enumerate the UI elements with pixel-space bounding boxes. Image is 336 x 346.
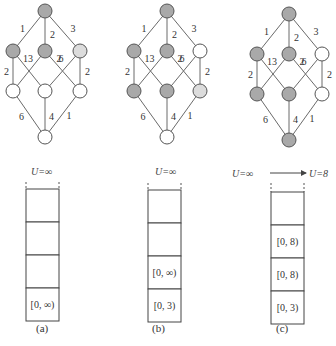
graph-node [38,44,52,58]
caption-b: (b) [152,322,165,335]
edge-weight-label: 1 [142,23,147,34]
edge-weight-label: 3 [71,23,76,34]
edge-weight-label: 6 [141,111,146,122]
edge-weight-label: 1 [264,26,269,37]
edge-weight-label: 2 [178,53,183,64]
edge-weight-label: 1 [145,53,150,64]
stack-cell [148,190,181,223]
edge-weight-label: 4 [171,111,176,122]
graph-node [38,4,52,18]
stack-cell-interval: [0, 3) [154,300,176,312]
upper-bound-label-c-new: U=8 [309,168,328,179]
edge-weight-label: 6 [19,111,24,122]
edge-weight-label: 2 [4,66,9,77]
graph-node [73,84,87,98]
edge-weight-label: 3 [272,56,277,67]
edge-weight-label: 2 [248,69,253,80]
graph-node [282,7,296,21]
graph-edge [257,14,289,54]
graph-node [250,47,264,61]
graph-node [6,44,20,58]
graph-node [6,84,20,98]
caption-a: (a) [36,322,49,335]
panel-a: 123231622641[0, ∞) [4,4,90,321]
edge-weight-label: 1 [188,110,193,121]
upper-bound-label-b: U=∞ [155,166,176,177]
stack-cell [148,223,181,256]
graph-node [193,44,207,58]
edge-weight-label: 3 [28,53,33,64]
stack-cell [26,255,59,288]
graph-node [282,47,296,61]
upper-bound-label-c: U=∞ [232,168,253,179]
diagram-canvas: 123231622641[0, ∞) 123231622641[0, ∞)[0,… [0,0,336,346]
stack-cell [26,189,59,222]
edge-weight-label: 2 [327,69,332,80]
graph-node [127,44,141,58]
edge-weight-label: 2 [125,66,130,77]
graph-node [282,133,296,147]
edge-weight-label: 3 [150,53,155,64]
edge-weight-label: 2 [172,29,177,40]
panel-b: 123231622641[0, ∞)[0, 3) [125,4,210,322]
stack-cell-interval: [0, 8) [277,236,299,248]
graph-edge [134,91,167,137]
edge-weight-label: 4 [49,111,54,122]
edge-weight-label: 6 [263,114,268,125]
edge-weight-label: 1 [23,53,28,64]
graph-node [282,87,296,101]
edge-weight-label: 1 [310,113,315,124]
panel-c: 123231622641[0, 8)[0, 8)[0, 3) [248,7,332,324]
edge-weight-label: 2 [205,66,210,77]
edge-weight-label: 3 [314,26,319,37]
stack-cell-interval: [0, ∞) [153,267,177,279]
edge-weight-label: 1 [67,110,72,121]
graph-node [160,4,174,18]
graph-node [38,84,52,98]
graph-node [38,130,52,144]
stack-cell-interval: [0, 3) [277,302,299,314]
graph-node [73,44,87,58]
stack-cell [26,222,59,255]
graph-node [315,47,329,61]
graph-edge [257,94,289,140]
upper-bound-label-a: U=∞ [31,166,52,177]
graph-node [127,84,141,98]
edge-weight-label: 4 [293,114,298,125]
stack-cell-interval: [0, ∞) [31,299,55,311]
edge-weight-label: 1 [20,23,25,34]
edge-weight-label: 2 [85,66,90,77]
graph-edge [13,91,45,137]
edge-weight-label: 1 [267,56,272,67]
edge-weight-label: 2 [294,32,299,43]
edge-weight-label: 2 [300,56,305,67]
graph-node [160,44,174,58]
edge-weight-label: 3 [192,23,197,34]
caption-c: (c) [276,322,289,335]
edge-weight-label: 2 [57,53,62,64]
graph-node [193,84,207,98]
graph-node [160,84,174,98]
graph-edge [134,11,167,51]
graph-node [160,130,174,144]
graph-edge [13,11,45,51]
graph-node [315,87,329,101]
stack-cell-interval: [0, 8) [277,269,299,281]
stack-cell [271,192,304,225]
graph-node [250,87,264,101]
edge-weight-label: 2 [50,29,55,40]
